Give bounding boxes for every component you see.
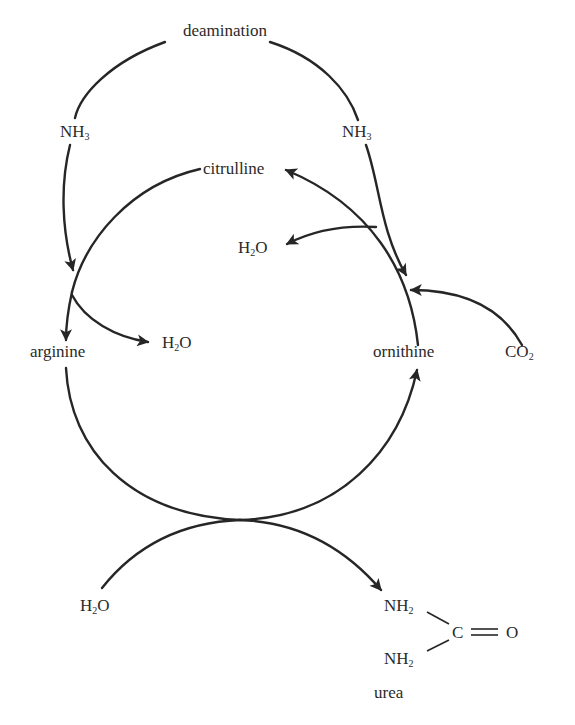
label-nh3-right: NH3 bbox=[342, 123, 372, 142]
arc-citrulline-to-arginine bbox=[72, 169, 200, 292]
label-co2: CO2 bbox=[505, 343, 534, 362]
label-h2o-middle: H2O bbox=[162, 334, 192, 353]
arc-deamination-left bbox=[75, 42, 165, 118]
label-h2o-bottom: H2O bbox=[80, 597, 110, 616]
arrow-nh3-to-arginine bbox=[64, 145, 73, 270]
arrow-co2-in bbox=[411, 290, 522, 345]
arrow-h2o-release-top bbox=[287, 227, 376, 244]
arc-arginine-to-ornithine-left bbox=[66, 368, 240, 520]
arc-deamination-right bbox=[270, 42, 358, 120]
label-citrulline: citrulline bbox=[203, 160, 264, 177]
arc-arginine-to-ornithine-right bbox=[240, 370, 417, 520]
label-deamination: deamination bbox=[183, 22, 267, 39]
label-ornithine: ornithine bbox=[373, 343, 434, 360]
label-urea-nh2-bottom: NH2 bbox=[384, 650, 414, 669]
label-arginine: arginine bbox=[30, 343, 85, 360]
arrow-urea-out bbox=[240, 520, 381, 590]
label-h2o-top: H2O bbox=[238, 239, 268, 258]
arrow-nh3-to-ornithine bbox=[366, 145, 406, 275]
urea-cycle-diagram: deamination NH3 NH3 citrulline H2O argin… bbox=[0, 0, 575, 725]
arrow-to-arginine bbox=[66, 292, 72, 340]
label-urea-nh2-top: NH2 bbox=[384, 597, 414, 616]
label-urea-carbon: C bbox=[452, 624, 463, 641]
diagram-arrows bbox=[0, 0, 575, 725]
label-urea: urea bbox=[374, 684, 403, 701]
arrow-h2o-release-left bbox=[72, 295, 148, 342]
urea-bond-top bbox=[427, 612, 449, 624]
urea-bond-bottom bbox=[427, 640, 449, 651]
label-urea-oxygen: O bbox=[506, 624, 518, 641]
arc-h2o-in bbox=[102, 520, 240, 588]
label-nh3-left: NH3 bbox=[60, 123, 90, 142]
